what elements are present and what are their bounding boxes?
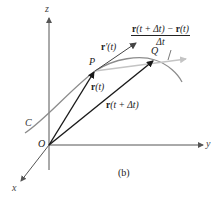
difference-quotient-label: r(t + Δt) − r(t) Δt [131,24,190,47]
origin-label: O [38,139,45,149]
r-prime-label: r′(t) [101,43,116,53]
panel-label: (b) [118,168,130,178]
r-arg: (t + Δt) [110,100,138,110]
z-axis-label: z [45,4,49,14]
x-axis-label: x [12,183,16,193]
r-t-dt-label: r(t + Δt) [106,101,139,111]
quotient-numerator: r(t + Δt) − r(t) [131,24,190,36]
num-part: (t) [180,24,189,34]
r-t-label: r(t) [91,83,104,93]
r-arg: ′(t) [105,42,116,52]
quotient-denominator: Δt [131,36,190,47]
position-vector-r-t [49,72,94,145]
point-q-label: Q [151,46,158,56]
point-p-label: P [89,57,95,67]
label-pointer [168,50,171,60]
r-arg: (t) [95,82,104,92]
num-part: (t + Δt) − [136,24,176,34]
curve-label: C [25,118,32,128]
y-axis-label: y [206,139,210,149]
x-axis [21,145,49,181]
